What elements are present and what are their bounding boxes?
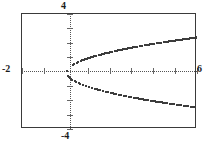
curve-point (120, 94, 122, 96)
curve-point (91, 87, 93, 89)
curve-point (107, 91, 109, 93)
curve-point (95, 55, 97, 57)
curve-point (125, 95, 127, 97)
axis-label-xmax: 6 (197, 64, 202, 74)
curve-point (194, 106, 196, 108)
curve-point (111, 51, 113, 53)
curve-point (99, 89, 101, 91)
curve-point (180, 104, 182, 106)
curve-point (173, 103, 175, 105)
curve-point (130, 96, 132, 98)
curve-point (66, 70, 68, 72)
plot-frame (21, 13, 196, 128)
curve-point (187, 105, 189, 107)
curve-point (102, 90, 104, 92)
curve-point (73, 63, 75, 65)
curve-point (88, 86, 90, 88)
curve-point (136, 46, 138, 48)
axis-label-xmin: -2 (2, 64, 10, 74)
curve-point (79, 83, 81, 85)
curve-point (147, 99, 149, 101)
calculator-screen: 4 -4 -2 6 (0, 0, 205, 149)
curve-point (85, 85, 87, 87)
curve-point (71, 79, 73, 81)
curve-point (77, 61, 79, 63)
curve-point (166, 102, 168, 104)
curve-point (141, 45, 143, 47)
curve-point (196, 36, 197, 38)
curve-point (75, 81, 77, 83)
parabola-curve (22, 14, 197, 129)
curve-point (82, 84, 84, 86)
curve-point (153, 43, 155, 45)
axis-label-ymin: -4 (61, 131, 69, 141)
curve-point (160, 42, 162, 44)
axis-label-ymax: 4 (61, 1, 66, 11)
curve-point (115, 93, 117, 95)
